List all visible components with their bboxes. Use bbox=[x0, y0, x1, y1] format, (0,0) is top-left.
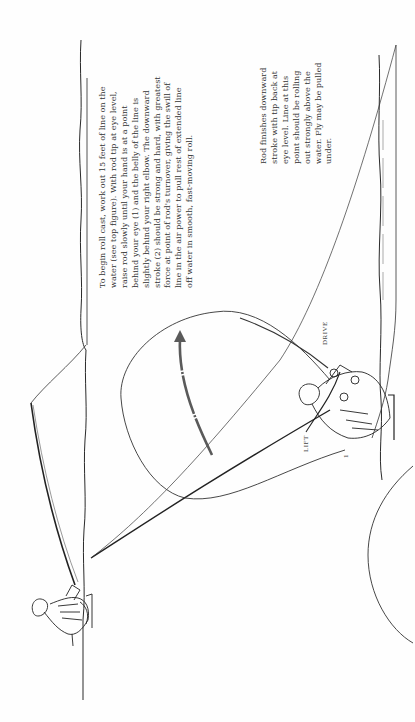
water-line-left bbox=[80, 40, 87, 700]
caption-line: water (see top figure). With rod tip at … bbox=[108, 76, 119, 288]
book-page: To begin roll cast, work out 15 feet of … bbox=[0, 0, 415, 722]
caption-line: line in the air power to pull rest of ex… bbox=[173, 76, 184, 288]
line-diagonal-a bbox=[91, 410, 330, 558]
caption-line: Rod finishes downward bbox=[258, 63, 269, 164]
caption-line: force at point of rod's turnover, giving… bbox=[162, 76, 173, 288]
caption-line: slightly behind your right elbow. The do… bbox=[141, 76, 152, 288]
motion-arrow bbox=[180, 338, 212, 455]
caption-line: raise rod slowly until your hand is at a… bbox=[119, 76, 130, 288]
caption-finish: Rod finishes downward stroke with tip ba… bbox=[258, 63, 334, 164]
top-rod-2 bbox=[33, 405, 78, 582]
line-loop bbox=[121, 311, 345, 499]
caption-line: out strongly above the bbox=[302, 63, 313, 164]
caption-line: stroke (2) should be strong and hard, wi… bbox=[152, 76, 163, 288]
circle-arc bbox=[368, 466, 413, 643]
motion-arrow-head bbox=[174, 330, 186, 342]
label-lift: LIFT bbox=[302, 435, 310, 452]
top-rod bbox=[31, 403, 75, 585]
caption-line: behind your eye (1) and the belly of the… bbox=[130, 76, 141, 288]
label-drive: DRIVE bbox=[321, 321, 329, 345]
middle-rod bbox=[240, 318, 328, 368]
label-step-number: 1 bbox=[342, 454, 350, 458]
caption-line: off water in smooth, fast-moving roll. bbox=[184, 76, 195, 288]
caption-line: stroke with tip back at bbox=[269, 63, 280, 164]
caption-line: eye level. Line at this bbox=[280, 63, 291, 164]
caption-begin: To begin roll cast, work out 15 feet of … bbox=[97, 76, 195, 288]
caption-line: under. bbox=[323, 63, 334, 164]
line-to-water bbox=[31, 345, 86, 403]
caption-line: point should be rolling bbox=[291, 63, 302, 164]
caption-line: To begin roll cast, work out 15 feet of … bbox=[97, 76, 108, 288]
roll-cast-illustration bbox=[0, 0, 415, 722]
caption-line: water. Fly may be pulled bbox=[313, 63, 324, 164]
